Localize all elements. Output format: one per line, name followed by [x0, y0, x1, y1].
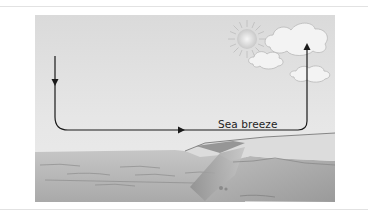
arrowhead-right-icon [178, 127, 185, 134]
sea-breeze-label: Sea breeze [218, 118, 278, 130]
diagram-canvas [35, 15, 335, 202]
bottom-divider [0, 209, 368, 210]
sea-breeze-diagram: Sea breeze [35, 15, 335, 202]
cloud-icon [265, 23, 327, 55]
arrowhead-down-icon [52, 79, 59, 86]
top-divider [0, 6, 368, 7]
land [185, 133, 335, 202]
cloud-icon [290, 66, 330, 82]
